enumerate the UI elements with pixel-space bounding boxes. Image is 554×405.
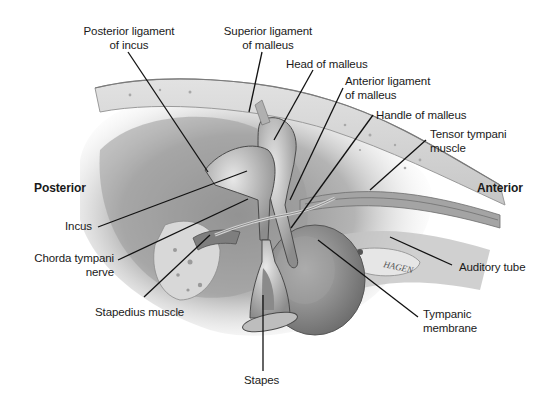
label-stapedius-muscle: Stapedius muscle: [95, 305, 184, 319]
label-chorda-tympani-nerve: Chorda tympani nerve: [18, 251, 114, 279]
label-line: Posterior ligament: [75, 24, 183, 38]
label-head-of-malleus: Head of malleus: [286, 57, 368, 71]
label-line: Stapes: [244, 373, 279, 387]
label-line: muscle: [430, 141, 507, 155]
label-line: of incus: [75, 38, 183, 52]
label-line: Incus: [40, 219, 92, 233]
anatomy-illustration: HAGEN: [0, 0, 554, 405]
label-line: Anterior ligament: [345, 74, 430, 88]
label-incus: Incus: [40, 219, 92, 233]
label-line: Tensor tympani: [430, 127, 507, 141]
label-line: Chorda tympani: [18, 251, 114, 265]
label-superior-ligament-of-malleus: Superior ligament of malleus: [214, 24, 322, 52]
label-tensor-tympani-muscle: Tensor tympani muscle: [430, 127, 507, 155]
label-line: of malleus: [345, 88, 430, 102]
label-line: Tympanic: [423, 307, 477, 321]
label-tympanic-membrane: Tympanic membrane: [423, 307, 477, 335]
label-handle-of-malleus: Handle of malleus: [376, 108, 466, 122]
label-auditory-tube: Auditory tube: [459, 260, 525, 274]
label-line: Stapedius muscle: [95, 305, 184, 319]
label-line: membrane: [423, 321, 477, 335]
label-line: of malleus: [214, 38, 322, 52]
label-posterior-ligament-of-incus: Posterior ligament of incus: [75, 24, 183, 52]
label-stapes: Stapes: [244, 373, 279, 387]
label-line: Superior ligament: [214, 24, 322, 38]
orientation-posterior: Posterior: [34, 181, 86, 195]
label-line: Handle of malleus: [376, 108, 466, 122]
label-line: Head of malleus: [286, 57, 368, 71]
middle-ear-diagram: HAGEN: [0, 0, 554, 405]
orientation-anterior: Anterior: [477, 181, 523, 195]
label-anterior-ligament-of-malleus: Anterior ligament of malleus: [345, 74, 430, 102]
label-line: nerve: [18, 265, 114, 279]
label-line: Auditory tube: [459, 260, 525, 274]
